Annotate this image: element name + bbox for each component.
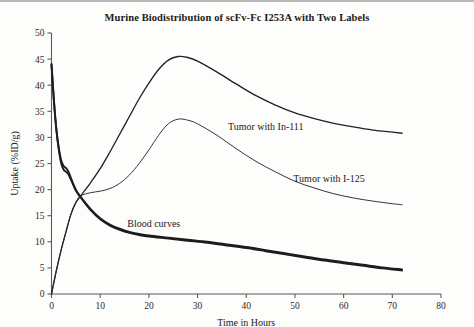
y-axis-tick-label: 15 [35, 211, 45, 221]
curve-blood-i125 [52, 64, 403, 270]
y-axis-tick-label: 20 [35, 185, 45, 195]
annotation-tumor-in111: Tumor with In-111 [228, 121, 304, 132]
annotation-tumor-i125: Tumor with I-125 [293, 173, 364, 184]
y-axis-tick-label: 50 [35, 28, 45, 38]
curve-blood-in111 [52, 64, 403, 269]
y-axis-title: Uptake (%ID/g) [9, 131, 21, 196]
y-axis-tick-label: 25 [35, 159, 45, 169]
curve-annotations-group: Tumor with In-111Tumor with I-125Blood c… [127, 121, 364, 230]
chart-figure: Murine Biodistribution of scFv-Fc I253A … [0, 0, 474, 327]
y-axis-tick-label: 5 [40, 263, 45, 273]
chart-plot-area: 0510152025303540455001020304050607080 Tu… [0, 2, 474, 327]
x-axis-tick-label: 60 [339, 301, 349, 311]
y-axis-tick-label: 40 [35, 81, 45, 91]
x-axis-tick-label: 80 [436, 301, 446, 311]
y-axis-tick-label: 10 [35, 237, 45, 247]
y-axis-tick-label: 45 [35, 55, 45, 65]
x-axis-tick-label: 30 [193, 301, 203, 311]
x-axis-tick-label: 20 [144, 301, 154, 311]
x-axis-tick-label: 0 [49, 301, 54, 311]
annotation-blood-curves: Blood curves [127, 218, 180, 229]
y-axis-tick-label: 0 [40, 289, 45, 299]
x-axis-tick-label: 10 [95, 301, 105, 311]
x-axis-tick-label: 40 [242, 301, 252, 311]
x-axis-title: Time in Hours [217, 317, 275, 327]
curve-tumor-i125 [52, 119, 403, 294]
x-axis-tick-label: 50 [290, 301, 300, 311]
x-axis-tick-label: 70 [388, 301, 398, 311]
y-axis-tick-label: 30 [35, 133, 45, 143]
y-axis-tick-label: 35 [35, 107, 45, 117]
